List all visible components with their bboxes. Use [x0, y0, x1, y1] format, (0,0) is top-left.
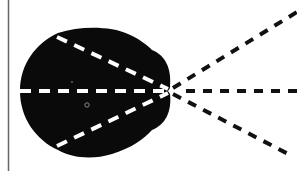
ray-diagram [0, 0, 297, 171]
dot-marker-icon [71, 81, 73, 83]
